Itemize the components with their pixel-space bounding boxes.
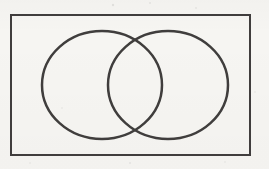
scan-noise-specks (29, 2, 256, 164)
scan-noise-speck (224, 161, 226, 163)
scan-noise-speck (112, 4, 114, 6)
scan-noise-speck (254, 91, 256, 93)
scan-noise-speck (61, 107, 63, 109)
right-circle (108, 31, 228, 139)
scan-noise-speck (149, 2, 151, 4)
left-circle (42, 31, 162, 139)
scan-noise-speck (29, 162, 31, 164)
venn-diagram-figure (0, 0, 269, 169)
scan-noise-speck (195, 7, 197, 9)
scanned-page (0, 0, 269, 169)
scan-noise-speck (129, 162, 131, 164)
